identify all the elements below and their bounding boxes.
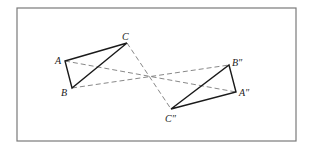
triangle-abc	[65, 43, 127, 88]
label-b: B	[61, 87, 67, 98]
label-b2: B″	[232, 57, 243, 68]
label-c: C	[122, 31, 129, 42]
triangle-a2b2c2	[171, 65, 236, 109]
label-c2: C″	[165, 113, 177, 124]
reflection-diagram: A B C A″ B″ C″	[0, 0, 312, 148]
dashed-line-c-c2	[127, 43, 171, 109]
label-a2: A″	[238, 87, 250, 98]
label-a: A	[54, 55, 62, 66]
dashed-line-a-a2	[65, 61, 236, 92]
figure-frame	[17, 8, 296, 141]
